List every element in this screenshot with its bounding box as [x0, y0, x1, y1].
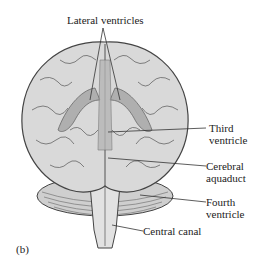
label-cerebral-aquaduct-line1: Cerebral: [206, 160, 246, 172]
label-third-ventricle: Third ventricle: [209, 122, 247, 146]
label-central-canal: Central canal: [143, 225, 201, 237]
label-cerebral-aquaduct-line2: aquaduct: [206, 172, 246, 184]
label-fourth-ventricle: Fourth ventricle: [206, 196, 244, 220]
label-cerebral-aquaduct: Cerebral aquaduct: [206, 160, 246, 184]
third-ventricle: [98, 60, 112, 150]
label-lateral-ventricles: Lateral ventricles: [67, 14, 144, 26]
label-fourth-ventricle-line1: Fourth: [206, 196, 244, 208]
label-fourth-ventricle-line2: ventricle: [206, 208, 244, 220]
label-third-ventricle-line2: ventricle: [209, 134, 247, 146]
label-third-ventricle-line1: Third: [209, 122, 247, 134]
panel-label: (b): [16, 243, 29, 255]
